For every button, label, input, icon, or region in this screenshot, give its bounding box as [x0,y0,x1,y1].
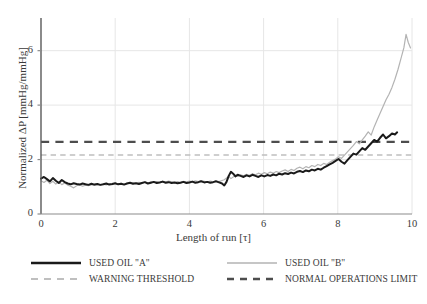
legend-swatch [30,258,82,268]
legend-swatch [226,274,278,284]
legend-item[interactable]: USED OIL "B" [226,258,422,268]
x-tick-label: 2 [102,218,128,229]
legend-swatch [30,274,82,284]
legend-item[interactable]: NORMAL OPERATIONS LIMIT [226,274,422,284]
series-line [41,132,397,185]
series-line [41,34,411,188]
y-tick-label: 6 [7,44,33,55]
chart-container: Length of run [τ] Normalized ΔP [mmHg/mm… [0,0,427,304]
y-tick-label: 2 [7,153,33,164]
legend-label: NORMAL OPERATIONS LIMIT [285,274,417,284]
y-tick-label: 4 [7,98,33,109]
legend-swatch [226,258,278,268]
x-tick-label: 0 [28,218,54,229]
chart-legend: USED OIL "A"USED OIL "B"WARNING THRESHOL… [30,258,422,284]
legend-item[interactable]: WARNING THRESHOLD [30,274,226,284]
y-tick-label: 0 [7,207,33,218]
legend-label: USED OIL "A" [89,258,150,268]
legend-item[interactable]: USED OIL "A" [30,258,226,268]
x-tick-label: 4 [176,218,202,229]
legend-label: WARNING THRESHOLD [89,274,194,284]
legend-label: USED OIL "B" [285,258,345,268]
x-tick-label: 10 [399,218,425,229]
x-axis-title: Length of run [τ] [0,231,427,243]
x-tick-label: 6 [251,218,277,229]
x-tick-label: 8 [325,218,351,229]
